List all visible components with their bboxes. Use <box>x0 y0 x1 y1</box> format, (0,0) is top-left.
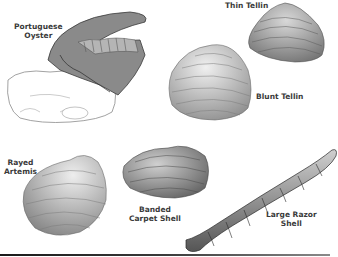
shell-illustration: Portuguese Oyster Thin Tellin Blunt Tell… <box>0 0 338 257</box>
banded-carpet-shell-drawing <box>123 146 209 198</box>
label-line: Shell <box>266 219 317 228</box>
portuguese-oyster-label: Portuguese Oyster <box>14 22 63 40</box>
label-line: Thin Tellin <box>225 1 268 10</box>
large-razor-shell-drawing <box>186 150 337 252</box>
banded-carpet-shell-label: Banded Carpet Shell <box>129 205 181 223</box>
thin-tellin-label: Thin Tellin <box>225 1 268 10</box>
label-line: Large Razor <box>266 210 317 219</box>
thin-tellin-drawing <box>249 3 325 62</box>
blunt-tellin-drawing <box>169 45 251 120</box>
bottom-rule-divider <box>0 254 330 256</box>
label-line: Artemis <box>4 167 37 176</box>
label-line: Banded <box>129 205 181 214</box>
label-line: Oyster <box>14 31 63 40</box>
label-line: Rayed <box>4 158 37 167</box>
blunt-tellin-label: Blunt Tellin <box>256 92 303 101</box>
large-razor-shell-label: Large Razor Shell <box>266 210 317 228</box>
label-line: Blunt Tellin <box>256 92 303 101</box>
label-line: Carpet Shell <box>129 214 181 223</box>
rayed-artemis-label: Rayed Artemis <box>4 158 37 176</box>
label-line: Portuguese <box>14 22 63 31</box>
